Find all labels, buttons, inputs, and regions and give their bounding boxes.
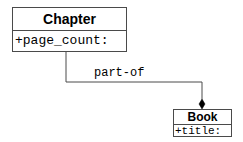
composition-diamond-icon — [199, 99, 205, 109]
class-attribute: +page_count: — [13, 31, 126, 51]
class-chapter[interactable]: Chapter +page_count: — [12, 7, 127, 52]
class-book[interactable]: Book +title: — [173, 109, 232, 137]
uml-diagram: part-of Chapter +page_count: Book +title… — [0, 0, 243, 142]
class-name: Book — [174, 110, 231, 125]
association-label: part-of — [94, 66, 144, 80]
class-attribute: +title: — [174, 125, 231, 137]
class-name: Chapter — [13, 8, 126, 31]
